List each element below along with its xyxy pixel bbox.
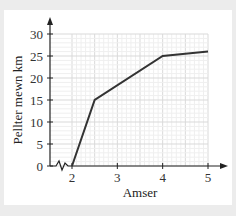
x-tick-label: 4 [159, 170, 166, 185]
y-tick-label: 30 [30, 27, 43, 42]
y-tick-label: 10 [30, 115, 43, 130]
y-tick-label: 5 [37, 137, 44, 152]
line-chart: 2345 051015202530 Amser Pellter mewn km [0, 0, 236, 216]
x-axis-label: Amser [123, 185, 158, 200]
y-axis-label: Pellter mewn km [10, 56, 25, 145]
y-tick-label: 0 [37, 159, 44, 174]
y-tick-label: 25 [30, 49, 43, 64]
x-tick-labels: 2345 [69, 170, 212, 185]
x-tick-label: 2 [69, 170, 76, 185]
x-tick-label: 3 [114, 170, 121, 185]
x-tick-label: 5 [205, 170, 212, 185]
y-tick-label: 15 [30, 93, 43, 108]
y-tick-labels: 051015202530 [30, 27, 43, 174]
y-tick-label: 20 [30, 71, 43, 86]
axes [47, 17, 228, 170]
